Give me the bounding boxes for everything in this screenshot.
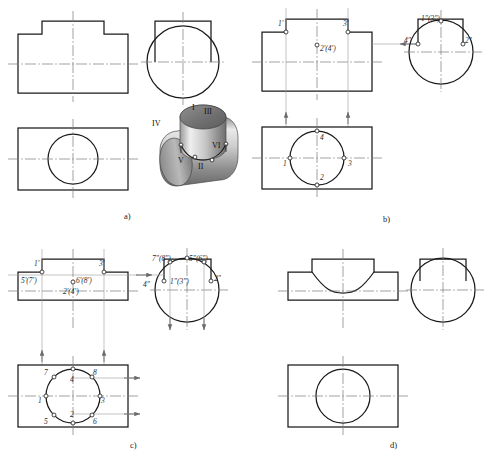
panel-a-pictorial-view [156, 105, 238, 202]
panel-c-top-label-3: 3 [101, 397, 105, 405]
panel-caption-d: d) [390, 441, 397, 450]
panel-d-front-view [278, 249, 408, 330]
panel-c [8, 248, 228, 437]
panel-b [252, 8, 482, 199]
panel-c-top-label-5: 5 [44, 418, 48, 426]
panel-c-top-label-7: 7 [44, 369, 48, 377]
panel-b-side-label-4pp: 4" [404, 37, 411, 45]
panel-b-top-label-4: 4 [320, 134, 324, 142]
panel-c-front-label-2p4p: 2'(4') [63, 288, 79, 296]
panel-c-side-label-1pp3pp: 1"(3") [170, 278, 189, 286]
pictorial-label-IV: IV [152, 120, 160, 128]
panel-b-side-label-2pp: 2" [465, 37, 472, 45]
panel-c-front-label-6p8p: 6'(8') [76, 277, 92, 285]
panel-caption-b: b) [383, 215, 390, 224]
pictorial-label-V: V [178, 157, 184, 165]
panel-c-side-view [136, 248, 228, 330]
panel-b-top-label-2: 2 [320, 174, 324, 182]
panel-c-front-view [8, 249, 138, 365]
drawing-sheet: I III IV VI V II a) b) c) d) 1' 3' 2'(4'… [0, 0, 489, 465]
panel-b-front-label-1p: 1' [278, 20, 283, 28]
panel-a-side-view [141, 12, 226, 105]
panel-d [278, 248, 484, 437]
panel-b-front-view [252, 8, 418, 127]
panel-caption-c: c) [130, 441, 137, 450]
panel-b-top-view [252, 118, 382, 199]
panel-caption-a: a) [124, 212, 131, 221]
pictorial-label-III: III [204, 108, 212, 116]
panel-c-side-label-4pp: 4" [143, 281, 150, 289]
panel-c-top-label-8: 8 [93, 369, 97, 377]
panel-c-top-label-2: 2 [70, 411, 74, 419]
panel-c-side-label-2pp: 2" [214, 275, 221, 283]
panel-b-side-label-1pp3pp: 1"(3") [421, 15, 440, 23]
panel-c-top-label-4: 4 [70, 376, 74, 384]
panel-c-top-label-6: 6 [93, 418, 97, 426]
panel-d-side-view [406, 248, 484, 330]
panel-c-side-label-5pp6pp: 5"(6") [189, 255, 208, 263]
panel-c-side-label-7pp8pp: 7"(8") [152, 255, 171, 263]
technical-drawing-svg [0, 0, 489, 465]
panel-a-front-view [8, 11, 138, 102]
pictorial-label-II: II [198, 163, 203, 171]
panel-b-front-label-3p: 3' [343, 20, 348, 28]
panel-c-top-label-1: 1 [38, 397, 42, 405]
panel-b-side-view [404, 10, 482, 92]
pictorial-label-VI: VI [212, 142, 220, 150]
panel-c-front-label-1p: 1' [34, 260, 39, 268]
pictorial-label-I: I [192, 104, 195, 112]
panel-c-front-label-3p: 3' [99, 260, 104, 268]
panel-a-top-view [8, 119, 138, 199]
panel-b-top-label-3: 3 [348, 160, 352, 168]
panel-d-top-view [278, 356, 408, 437]
panel-b-front-label-2p4p: 2'(4') [320, 45, 336, 53]
panel-c-top-view [8, 356, 140, 437]
panel-b-top-label-1: 1 [283, 160, 287, 168]
panel-c-front-label-5p7p: 5'(7') [21, 277, 37, 285]
